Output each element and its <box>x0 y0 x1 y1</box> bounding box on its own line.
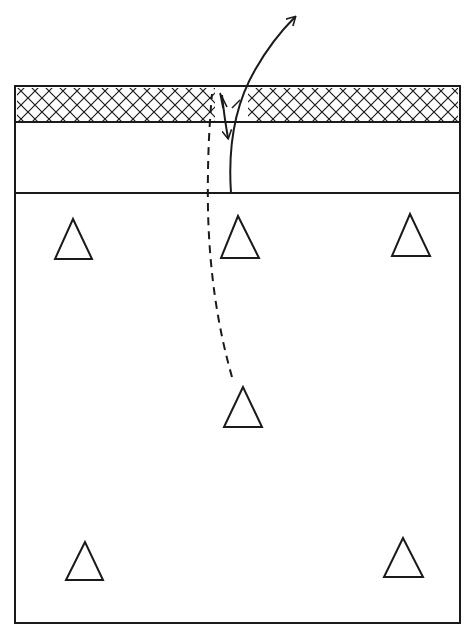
court-boundary <box>15 86 460 623</box>
net <box>15 88 460 122</box>
players <box>55 214 430 580</box>
player-right-back-icon <box>384 538 423 577</box>
player-right-front-icon <box>392 214 430 256</box>
player-left-back-icon <box>66 542 103 580</box>
player-center-back-icon <box>224 387 262 427</box>
volleyball-court-diagram <box>0 0 474 632</box>
player-left-front-icon <box>55 219 92 259</box>
player-center-front-icon <box>221 216 259 258</box>
